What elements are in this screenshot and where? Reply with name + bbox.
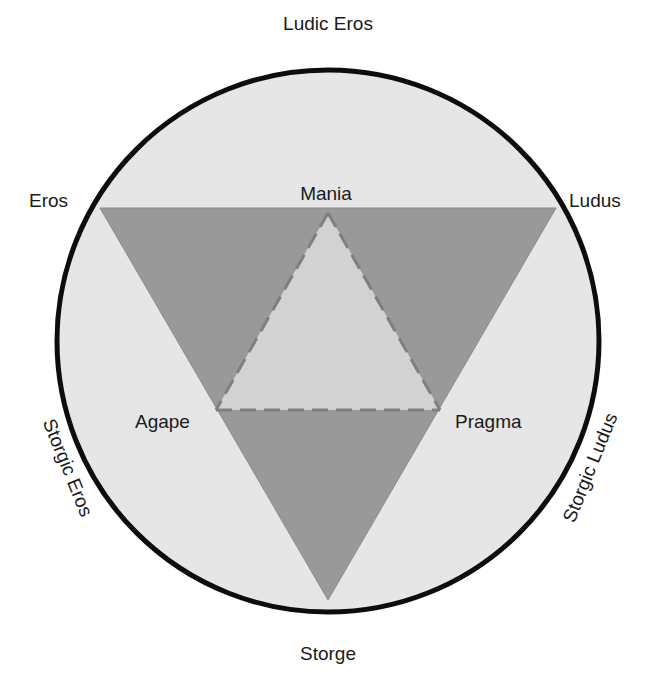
label-ludic-eros: Ludic Eros — [283, 13, 373, 34]
label-mania: Mania — [300, 183, 352, 204]
label-pragma: Pragma — [455, 411, 522, 432]
label-agape: Agape — [135, 411, 190, 432]
label-ludus: Ludus — [569, 190, 621, 211]
label-eros: Eros — [29, 190, 68, 211]
label-storge: Storge — [300, 643, 356, 664]
love-styles-diagram: Ludic Eros Eros Ludus Mania Agape Pragma… — [0, 0, 658, 688]
